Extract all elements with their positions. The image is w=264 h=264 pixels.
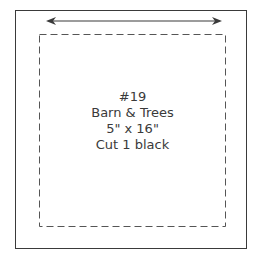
cut-instruction: Cut 1 black (39, 137, 226, 153)
piece-size: 5" x 16" (39, 121, 226, 137)
piece-name: Barn & Trees (39, 105, 226, 121)
pattern-label: #19 Barn & Trees 5" x 16" Cut 1 black (39, 89, 226, 153)
piece-number: #19 (39, 89, 226, 105)
